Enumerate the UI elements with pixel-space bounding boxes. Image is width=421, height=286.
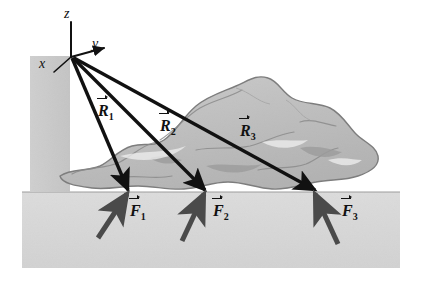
vector-arrow-accent-F2: F xyxy=(213,203,224,219)
vector-arrow-accent-R1: R xyxy=(98,103,109,119)
vector-arrow-accent-R3: R xyxy=(240,123,251,139)
figure-canvas: z y x R1 R2 R3 F1 F2 F3 xyxy=(0,0,421,286)
axis-label-y: y xyxy=(92,37,98,51)
axis-y xyxy=(71,48,104,57)
vector-subscript-R2: 2 xyxy=(171,126,176,137)
vector-arrow-accent-F3: F xyxy=(342,203,353,219)
vector-subscript-F3: 3 xyxy=(353,211,358,222)
vector-arrow-accent-F1: F xyxy=(130,203,141,219)
vector-label-R1: R1 xyxy=(98,103,114,122)
diagram-graphics xyxy=(0,0,421,286)
vector-subscript-R1: 1 xyxy=(109,111,114,122)
axis-label-x: x xyxy=(39,57,45,71)
vector-label-F2: F2 xyxy=(213,203,229,222)
vector-label-F3: F3 xyxy=(342,203,358,222)
vector-label-F1: F1 xyxy=(130,203,146,222)
wall-surface xyxy=(30,56,70,192)
vector-label-R2: R2 xyxy=(160,118,176,137)
axis-label-z: z xyxy=(64,7,69,21)
vector-arrow-accent-R2: R xyxy=(160,118,171,134)
vector-subscript-R3: 3 xyxy=(251,131,256,142)
vector-subscript-F1: 1 xyxy=(141,211,146,222)
vector-label-R3: R3 xyxy=(240,123,256,142)
vector-subscript-F2: 2 xyxy=(224,211,229,222)
